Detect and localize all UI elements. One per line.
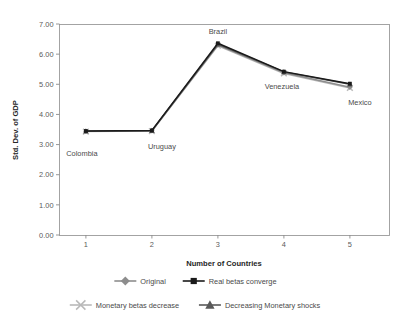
y-tick-label: 7.00 xyxy=(39,20,53,29)
y-axis-title: Std. Dev. of GDP xyxy=(11,100,20,160)
point-annotation-uruguay: Uruguay xyxy=(148,142,176,151)
y-tick-label: 3.00 xyxy=(39,140,53,149)
x-tick-label: 5 xyxy=(348,240,352,249)
series-line-3 xyxy=(86,44,350,131)
point-annotation-venezuela: Venezuela xyxy=(265,82,300,91)
series-marker-1 xyxy=(282,70,286,74)
x-tick-label: 2 xyxy=(150,240,154,249)
legend-label-1: Real betas converge xyxy=(209,277,277,286)
y-tick-label: 1.00 xyxy=(39,201,53,210)
plot-frame xyxy=(60,25,390,236)
y-tick-label: 0.00 xyxy=(39,231,53,240)
series-line-1 xyxy=(86,43,350,131)
line-chart: 0.001.002.003.004.005.006.007.00 12345 C… xyxy=(0,0,401,327)
y-tick-label: 2.00 xyxy=(39,170,53,179)
x-tick-label: 1 xyxy=(84,240,88,249)
chart-legend: OriginalReal betas convergeMonetary beta… xyxy=(70,277,321,310)
y-tick-label: 6.00 xyxy=(39,50,53,59)
series-marker-1 xyxy=(348,82,352,86)
y-tick-label: 5.00 xyxy=(39,80,53,89)
y-axis-ticks: 0.001.002.003.004.005.006.007.00 xyxy=(39,20,59,240)
point-annotation-brazil: Brazil xyxy=(209,27,228,36)
legend-marker-0 xyxy=(121,277,130,286)
x-axis-title: Number of Countries xyxy=(186,259,262,268)
legend-label-3: Decreasing Monetary shocks xyxy=(225,301,321,310)
data-series-group xyxy=(83,41,353,134)
series-line-0 xyxy=(86,45,350,131)
point-annotation-mexico: Mexico xyxy=(348,98,371,107)
y-tick-label: 4.00 xyxy=(39,110,53,119)
series-marker-1 xyxy=(216,41,220,45)
series-line-2 xyxy=(86,46,350,132)
legend-label-2: Monetary betas decrease xyxy=(96,301,179,310)
point-annotation-colombia: Colombia xyxy=(66,149,98,158)
x-axis-ticks: 12345 xyxy=(84,235,352,249)
x-tick-label: 3 xyxy=(216,240,220,249)
series-marker-1 xyxy=(150,129,154,133)
legend-label-0: Original xyxy=(140,277,166,286)
legend-marker-1 xyxy=(191,278,197,284)
x-tick-label: 4 xyxy=(282,240,286,249)
chart-figure: 0.001.002.003.004.005.006.007.00 12345 C… xyxy=(0,0,401,327)
series-marker-1 xyxy=(84,129,88,133)
